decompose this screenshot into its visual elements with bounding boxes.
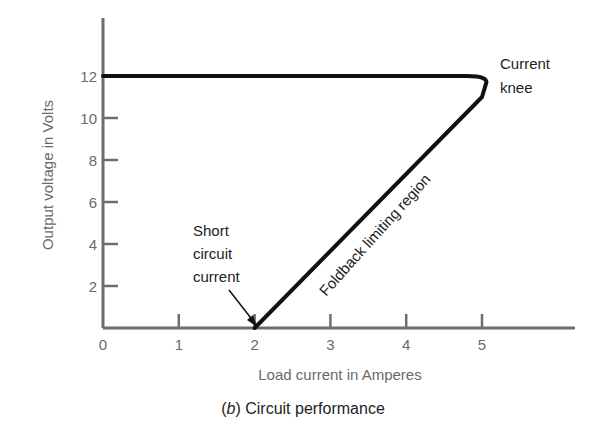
x-axis-label: Load current in Amperes: [258, 366, 421, 383]
caption-prefix: (b): [221, 400, 241, 417]
short-circuit-arrow-icon: [229, 290, 254, 322]
y-tick-label: 10: [80, 110, 97, 127]
foldback-region-label: Foldback limiting region: [316, 171, 434, 299]
x-tick-label: 5: [478, 336, 486, 353]
current-knee-annotation: Current knee: [500, 55, 551, 96]
x-tick-label: 0: [99, 336, 107, 353]
caption-text: Circuit performance: [245, 400, 385, 417]
short-circuit-line-2: circuit: [193, 245, 233, 262]
x-ticks: 012345: [99, 314, 486, 353]
y-tick-label: 12: [80, 68, 97, 85]
y-tick-label: 4: [89, 236, 97, 253]
short-circuit-line-3: current: [193, 268, 241, 285]
y-tick-label: 2: [89, 278, 97, 295]
x-tick-label: 2: [250, 336, 258, 353]
x-tick-label: 3: [326, 336, 334, 353]
short-circuit-line-1: Short: [193, 222, 230, 239]
y-axis-label: Output voltage in Volts: [39, 100, 56, 250]
x-tick-label: 4: [402, 336, 410, 353]
x-tick-label: 1: [175, 336, 183, 353]
figure-caption: (b) Circuit performance: [0, 400, 606, 418]
y-tick-label: 6: [89, 194, 97, 211]
y-ticks: 24681012: [80, 68, 118, 295]
foldback-chart: 012345 24681012 Load current in Amperes …: [0, 0, 606, 440]
current-knee-line-1: Current: [500, 55, 551, 72]
y-tick-label: 8: [89, 152, 97, 169]
foldback-curve: [103, 76, 486, 328]
current-knee-line-2: knee: [500, 79, 533, 96]
short-circuit-annotation: Short circuit current: [193, 222, 257, 327]
